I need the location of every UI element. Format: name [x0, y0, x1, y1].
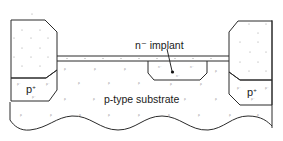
- svg-text:p: p: [257, 113, 259, 117]
- svg-text:p: p: [138, 113, 140, 117]
- svg-text:p: p: [215, 97, 217, 101]
- svg-text:p: p: [170, 82, 172, 86]
- svg-text:p: p: [20, 113, 22, 117]
- svg-text:p: p: [108, 113, 110, 117]
- implant-leader-line: [167, 49, 172, 71]
- svg-text:p: p: [215, 69, 217, 73]
- right-oxide-dots: [240, 24, 267, 72]
- svg-text:p: p: [64, 67, 66, 71]
- svg-text:n⁻: n⁻: [190, 65, 194, 69]
- svg-text:p⁺: p⁺: [46, 82, 50, 86]
- svg-text:p: p: [78, 81, 80, 85]
- svg-text:p: p: [93, 97, 95, 101]
- implant-dot: [171, 70, 174, 73]
- implant-label: n⁻ implant: [135, 39, 184, 51]
- svg-text:p⁺: p⁺: [237, 86, 241, 90]
- left-pplus-label: p+: [26, 83, 36, 95]
- svg-text:p: p: [64, 97, 66, 101]
- right-pplus-label: p+: [247, 86, 257, 98]
- diagram: p p p p p p p p p p p p p p p p p p p p …: [0, 0, 283, 141]
- svg-text:p: p: [198, 113, 200, 117]
- substrate-label: p-type substrate: [104, 93, 179, 105]
- cross-section-svg: p p p p p p p p p p p p p p p p p p p p …: [0, 0, 283, 141]
- svg-text:p: p: [94, 67, 96, 71]
- svg-text:p: p: [138, 81, 140, 85]
- svg-text:p: p: [124, 67, 126, 71]
- svg-text:p: p: [229, 113, 231, 117]
- svg-text:p: p: [168, 113, 170, 117]
- left-field-oxide: [11, 20, 57, 78]
- left-oxide-dots: [14, 14, 49, 67]
- svg-text:p: p: [79, 113, 81, 117]
- svg-text:p: p: [200, 82, 202, 86]
- svg-text:p⁺: p⁺: [17, 82, 21, 86]
- svg-text:p: p: [108, 81, 110, 85]
- svg-text:p: p: [50, 113, 52, 117]
- svg-text:n⁻: n⁻: [176, 74, 180, 78]
- thin-oxide-dots: [67, 58, 212, 59]
- svg-text:p: p: [184, 97, 186, 101]
- svg-text:n⁻: n⁻: [158, 65, 162, 69]
- svg-text:p⁺: p⁺: [265, 86, 269, 90]
- implant-dopant-marks: n⁻ n⁻ n⁻: [158, 65, 194, 78]
- svg-text:p⁺: p⁺: [32, 95, 36, 99]
